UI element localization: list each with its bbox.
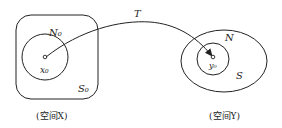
label-s0: S₀ bbox=[78, 83, 89, 94]
point-y0 bbox=[211, 55, 215, 59]
set-s-boundary bbox=[181, 30, 267, 92]
caption-space-y: (空间Y) bbox=[209, 110, 240, 121]
label-t: T bbox=[134, 8, 142, 19]
label-x0: x₀ bbox=[40, 65, 49, 75]
mapping-arrow bbox=[46, 22, 212, 57]
label-n: N bbox=[224, 32, 235, 43]
caption-space-x: (空间X) bbox=[36, 110, 67, 121]
label-s: S bbox=[236, 70, 243, 81]
label-n0: N₀ bbox=[48, 27, 62, 38]
label-y0: y₀ bbox=[208, 61, 218, 70]
mapping-diagram: N₀ x₀ S₀ (空间X) T N y₀ S (空间Y) bbox=[0, 0, 282, 128]
